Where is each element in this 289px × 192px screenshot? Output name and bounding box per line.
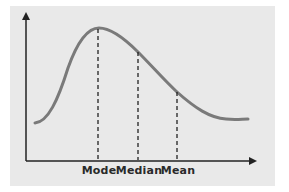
distribution-curve <box>35 28 248 123</box>
median-label: Median <box>116 164 163 177</box>
mean-label: Mean <box>161 164 195 177</box>
mode-label: Mode <box>82 164 117 177</box>
